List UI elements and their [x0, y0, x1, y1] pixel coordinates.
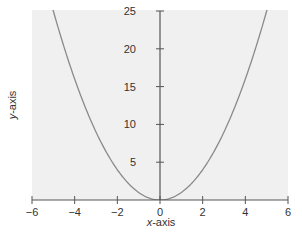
y-tick-label: 25	[124, 5, 136, 17]
y-tick-label: 10	[124, 118, 136, 130]
x-tick-label: −2	[111, 206, 124, 218]
y-axis-label: y-axis	[6, 90, 18, 120]
y-tick-label: 5	[130, 156, 136, 168]
x-axis-label: x-axis	[146, 216, 176, 228]
x-tick-label: −6	[26, 206, 39, 218]
y-tick-label: 15	[124, 81, 136, 93]
x-tick-label: −4	[68, 206, 81, 218]
parabola-chart: −6−4−20246 510152025 x-axis y-axis	[0, 0, 302, 236]
y-tick-label: 20	[124, 43, 136, 55]
x-tick-label: 4	[242, 206, 248, 218]
x-tick-label: 2	[200, 206, 206, 218]
x-tick-label: 6	[285, 206, 291, 218]
